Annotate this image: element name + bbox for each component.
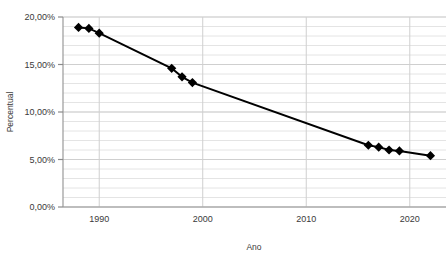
y-axis-ticks <box>58 17 63 207</box>
data-point-marker <box>426 151 435 160</box>
x-axis-tick-label: 1990 <box>89 214 109 224</box>
data-point-marker <box>84 24 93 33</box>
y-axis-tick-label: 0,00% <box>29 202 55 212</box>
x-axis-tick-label: 2020 <box>400 214 420 224</box>
data-series-line <box>79 27 431 155</box>
y-axis-tick-label: 5,00% <box>29 155 55 165</box>
y-axis-tick-label: 10,00% <box>24 107 55 117</box>
x-axis-tick-labels: 1990200020102020 <box>89 214 420 224</box>
data-series-markers <box>74 23 435 160</box>
data-point-marker <box>364 141 373 150</box>
x-axis-title: Ano <box>246 242 261 252</box>
y-axis-title: Percentual <box>5 92 15 133</box>
data-point-marker <box>395 146 404 155</box>
x-axis-tick-label: 2000 <box>193 214 213 224</box>
data-point-marker <box>384 145 393 154</box>
data-point-marker <box>188 78 197 87</box>
y-axis-tick-label: 20,00% <box>24 12 55 22</box>
y-axis-tick-labels: 0,00%5,00%10,00%15,00%20,00% <box>24 12 55 212</box>
chart-canvas: 0,00%5,00%10,00%15,00%20,00% 19902000201… <box>0 0 446 255</box>
line-chart: 0,00%5,00%10,00%15,00%20,00% 19902000201… <box>0 0 446 255</box>
x-axis-tick-label: 2010 <box>296 214 316 224</box>
y-axis-tick-label: 15,00% <box>24 60 55 70</box>
data-point-marker <box>74 23 83 32</box>
